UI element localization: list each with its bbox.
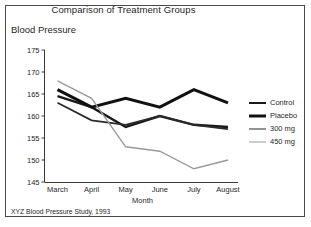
x-axis-title: Month — [50, 196, 235, 205]
legend-label: Control — [270, 98, 294, 107]
legend-item-300-mg[interactable]: 300 mg — [249, 122, 307, 135]
x-tick-label: July — [187, 185, 201, 194]
legend-swatch-icon — [249, 125, 266, 132]
x-tick-label: June — [152, 185, 168, 194]
x-tick-label: August — [216, 185, 240, 194]
series-line-300-mg — [58, 103, 229, 129]
x-tick-label: April — [84, 185, 99, 194]
data-series-lines — [58, 81, 229, 169]
y-tick-label: 155 — [27, 134, 40, 143]
x-tick-labels: MarchAprilMayJuneJulyAugust — [47, 185, 241, 194]
chart-legend: ControlPlacebo300 mg450 mg — [249, 96, 307, 148]
y-tick-label: 165 — [27, 90, 40, 99]
y-tick-label: 145 — [27, 178, 40, 187]
legend-item-placebo[interactable]: Placebo — [249, 109, 307, 122]
chart-figure: Comparison of Treatment Groups Blood Pre… — [0, 0, 311, 227]
legend-swatch-icon — [249, 99, 266, 106]
legend-label: Placebo — [270, 111, 297, 120]
legend-swatch-icon — [249, 138, 266, 145]
y-tick-labels: 175170165160155150145 — [27, 46, 40, 187]
legend-label: 300 mg — [270, 124, 295, 133]
series-line-control — [58, 96, 229, 127]
x-tick-label: March — [47, 185, 68, 194]
y-tick-label: 170 — [27, 68, 40, 77]
legend-item-450-mg[interactable]: 450 mg — [249, 135, 307, 148]
legend-label: 450 mg — [270, 137, 295, 146]
x-tick-label: May — [119, 185, 133, 194]
legend-swatch-icon — [249, 112, 266, 119]
y-tick-label: 175 — [27, 46, 40, 55]
y-tick-label: 150 — [27, 156, 40, 165]
figure-footnote: XYZ Blood Pressure Study, 1993 — [11, 208, 110, 216]
y-tick-label: 160 — [27, 112, 40, 121]
legend-item-control[interactable]: Control — [249, 96, 307, 109]
